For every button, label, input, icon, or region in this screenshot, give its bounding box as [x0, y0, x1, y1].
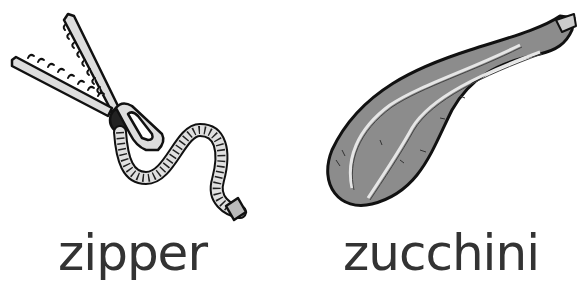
- zipper-icon: [12, 14, 246, 220]
- zucchini-label: zucchini: [343, 228, 539, 278]
- zipper-label: zipper: [58, 228, 207, 278]
- zucchini-icon: [328, 14, 576, 205]
